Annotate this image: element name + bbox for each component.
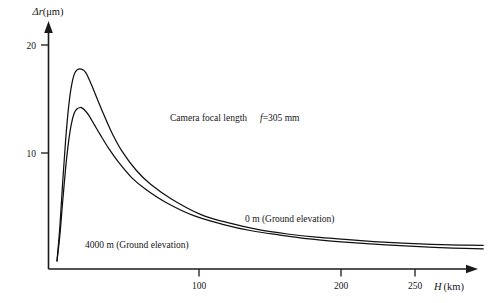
x-tick-label-200: 200 (334, 281, 349, 291)
y-tick-label-10: 10 (27, 149, 37, 159)
figure-container: 20 10 100 200 250 Δr(μm) H(km) Camera fo… (0, 0, 496, 303)
y-tick-label-20: 20 (27, 41, 37, 51)
annotations-group: Camera focal lengthf=305 mm 0 m (Ground … (85, 113, 334, 251)
x-axis-title: H(km) (433, 281, 465, 293)
y-axis-title: Δr(μm) (31, 6, 64, 18)
curve-4000m-ground-elevation (57, 107, 483, 261)
annotation-curve-lower: 4000 m (Ground elevation) (85, 240, 189, 251)
curves-group (57, 69, 483, 261)
x-tick-label-100: 100 (192, 281, 207, 291)
x-tick-label-250: 250 (408, 281, 423, 291)
y-axis-unit: (μm) (43, 6, 64, 18)
y-axis-arrowhead (44, 21, 53, 33)
x-axis-arrowhead (466, 265, 478, 273)
annotation-focal-length: Camera focal lengthf=305 mm (170, 113, 300, 123)
focal-prefix-text: Camera focal length (170, 113, 247, 123)
annotation-curve-upper: 0 m (Ground elevation) (245, 214, 334, 225)
tick-labels-group: 20 10 100 200 250 (27, 41, 423, 292)
x-axis-unit: (km) (444, 281, 465, 293)
axes-group (41, 21, 478, 277)
focal-value-text: =305 mm (263, 113, 300, 123)
chart-svg: 20 10 100 200 250 Δr(μm) H(km) Camera fo… (0, 0, 496, 303)
x-axis-symbol: H (433, 281, 443, 292)
